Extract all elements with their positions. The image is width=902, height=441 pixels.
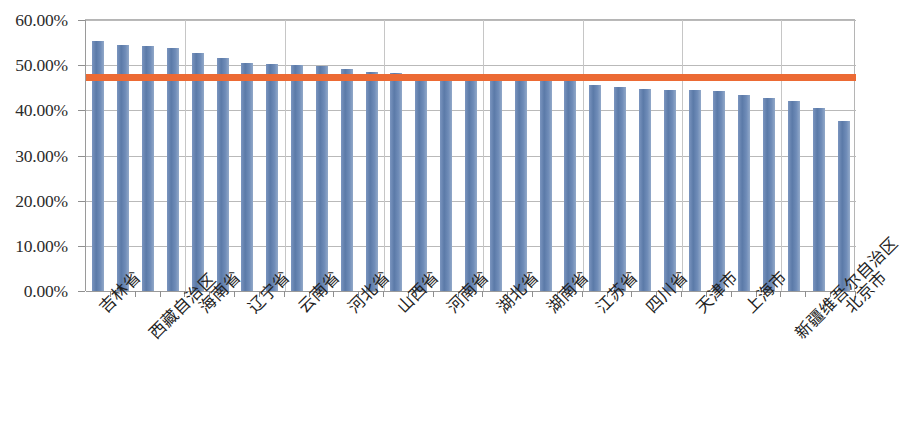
- vertical-gridline: [285, 20, 286, 291]
- y-tick-10: [78, 246, 85, 247]
- gridline-60: [86, 20, 856, 21]
- y-tick-30: [78, 156, 85, 157]
- bar: [366, 72, 378, 292]
- bar: [738, 95, 750, 291]
- y-axis-label: 20.00%: [15, 190, 68, 211]
- vertical-gridline: [781, 20, 782, 291]
- bar: [589, 85, 601, 291]
- bar: [664, 90, 676, 291]
- vertical-gridline: [583, 20, 584, 291]
- y-axis-label: 10.00%: [15, 235, 68, 256]
- bar: [614, 87, 626, 291]
- bar: [465, 77, 477, 291]
- bar: [564, 80, 576, 291]
- bar: [788, 101, 800, 291]
- bar: [241, 63, 253, 291]
- y-axis-label: 50.00%: [15, 55, 68, 76]
- x-axis-labels: 吉林省西藏自治区海南省辽宁省云南省河北省山西省河南省湖北省湖南省江苏省四川省天津…: [0, 291, 862, 441]
- bar: [390, 73, 402, 291]
- y-tick-50: [78, 65, 85, 66]
- y-axis-label: 60.00%: [15, 10, 68, 31]
- vertical-gridline: [384, 20, 385, 291]
- bar: [515, 79, 527, 291]
- bar: [415, 75, 427, 291]
- plot-area: [85, 20, 855, 291]
- bar: [763, 98, 775, 291]
- y-tick-60: [78, 20, 85, 21]
- bar: [316, 66, 328, 291]
- y-axis-label: 30.00%: [15, 145, 68, 166]
- vertical-gridline: [185, 20, 186, 291]
- y-axis: 0.00%10.00%20.00%30.00%40.00%50.00%60.00…: [0, 0, 80, 320]
- bar: [217, 58, 229, 292]
- bar: [713, 91, 725, 291]
- bar: [540, 79, 552, 291]
- bar: [689, 90, 701, 291]
- vertical-gridline: [483, 20, 484, 291]
- bar: [838, 121, 850, 291]
- y-tick-20: [78, 201, 85, 202]
- average-reference-line: [86, 74, 856, 81]
- y-axis-label: 40.00%: [15, 100, 68, 121]
- bar: [813, 108, 825, 291]
- vertical-gridline: [682, 20, 683, 291]
- bar: [341, 69, 353, 291]
- bar: [117, 45, 129, 291]
- bar: [192, 53, 204, 291]
- bar: [266, 64, 278, 291]
- bar: [639, 89, 651, 291]
- y-tick-40: [78, 110, 85, 111]
- bar: [142, 46, 154, 291]
- bar: [291, 65, 303, 291]
- bar: [167, 48, 179, 291]
- bar: [490, 78, 502, 291]
- bar: [440, 76, 452, 291]
